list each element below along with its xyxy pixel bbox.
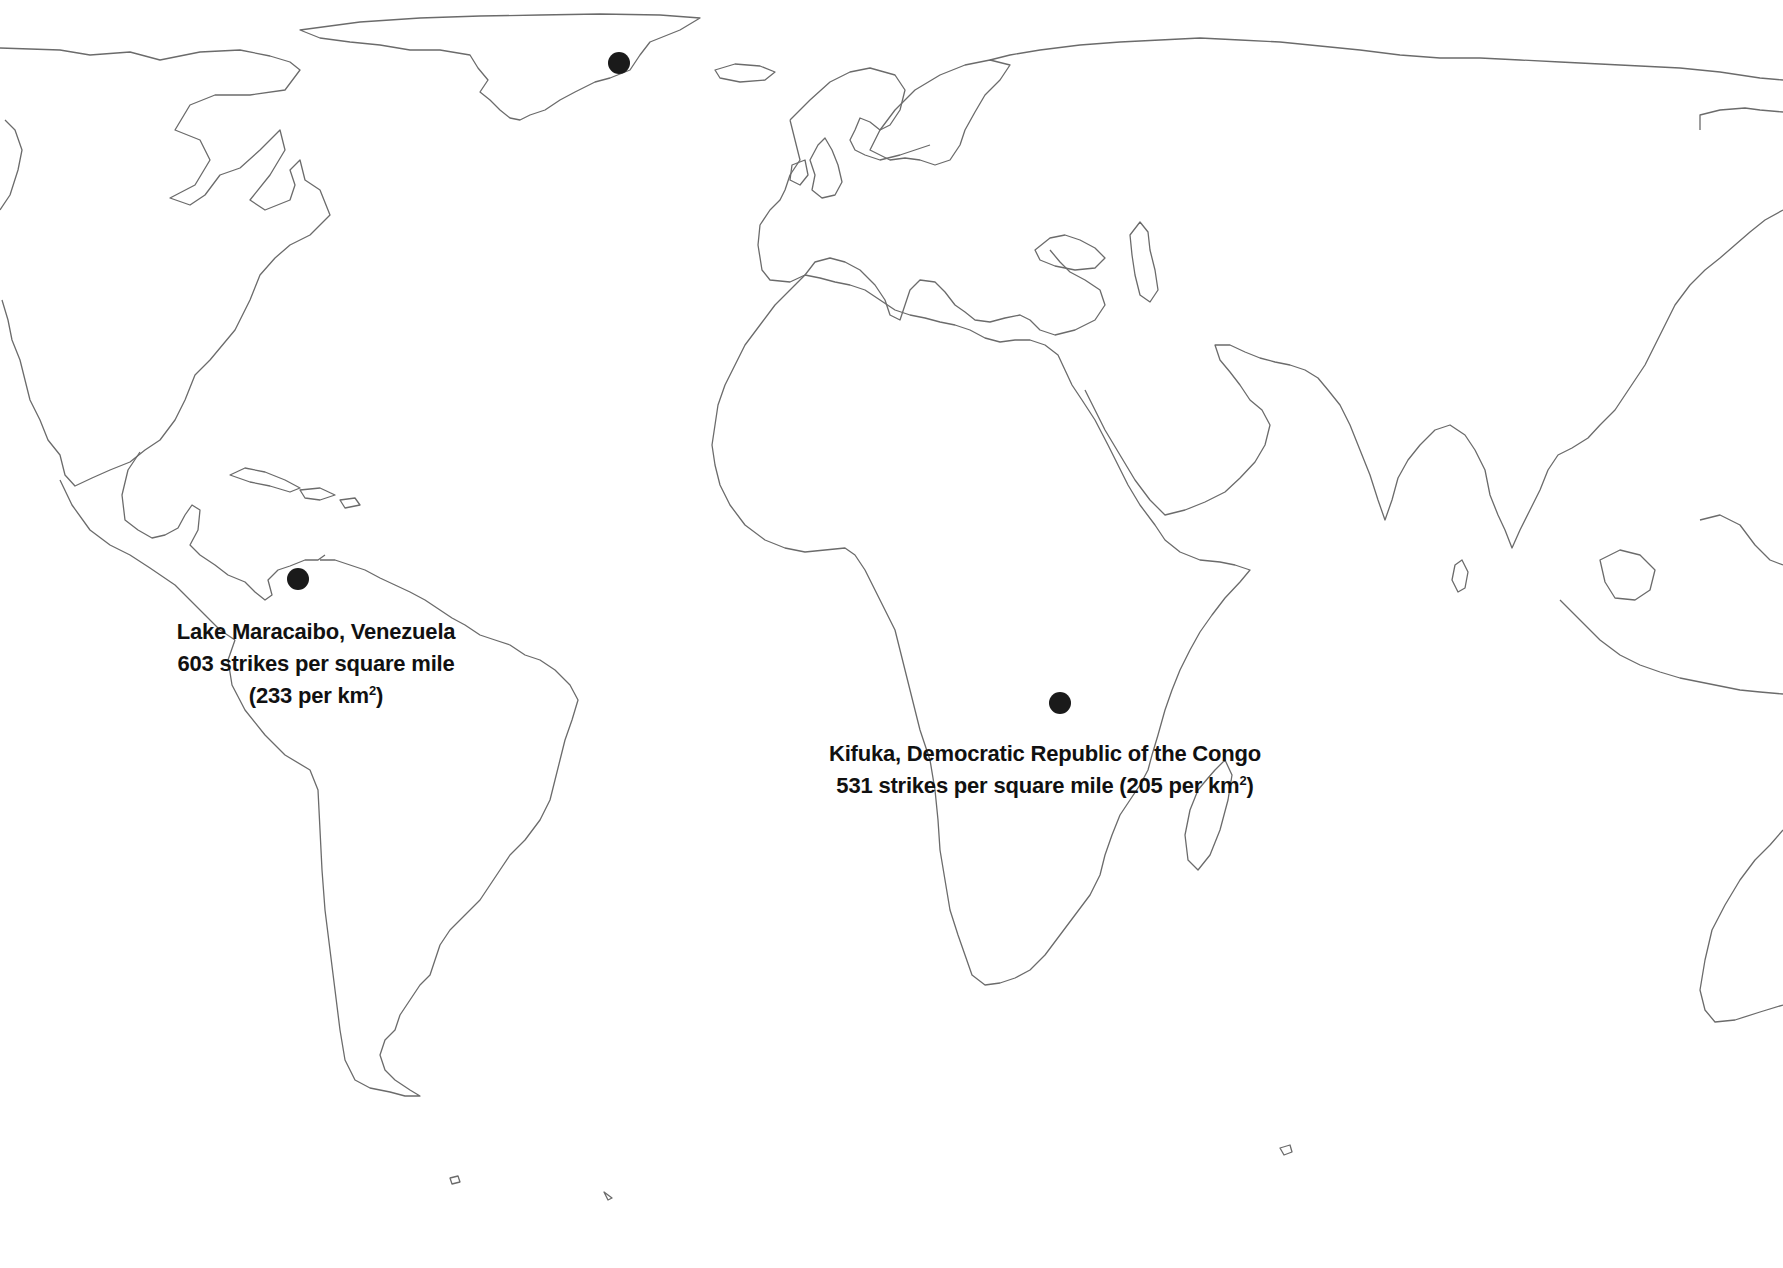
label-maracaibo-strikes-mile: 603 strikes per square mile bbox=[146, 648, 486, 680]
southeast-asia-islands bbox=[1560, 515, 1783, 694]
greenland-coastline bbox=[300, 14, 700, 120]
label-kifuka-location: Kifuka, Democratic Republic of the Congo bbox=[780, 738, 1310, 770]
label-maracaibo-strikes-km: (233 per km2) bbox=[146, 680, 486, 712]
marker-greenland bbox=[608, 52, 630, 74]
asia-coastline bbox=[990, 38, 1783, 548]
label-kifuka: Kifuka, Democratic Republic of the Congo… bbox=[780, 738, 1310, 802]
marker-lake-maracaibo bbox=[287, 568, 309, 590]
scandinavia-coastline bbox=[870, 60, 1010, 165]
label-lake-maracaibo: Lake Maracaibo, Venezuela 603 strikes pe… bbox=[146, 616, 486, 712]
iceland-coastline bbox=[715, 64, 775, 82]
north-america-coastline bbox=[0, 48, 330, 486]
europe-coastline bbox=[758, 68, 1105, 335]
sri-lanka-coastline bbox=[1452, 560, 1468, 592]
british-isles-coastline bbox=[790, 138, 842, 198]
small-islands bbox=[450, 1145, 1292, 1200]
black-sea-coastline bbox=[1035, 222, 1158, 302]
africa-coastline bbox=[712, 275, 1250, 985]
label-maracaibo-location: Lake Maracaibo, Venezuela bbox=[146, 616, 486, 648]
label-kifuka-strikes: 531 strikes per square mile (205 per km2… bbox=[780, 770, 1310, 802]
caribbean-islands bbox=[230, 468, 360, 508]
marker-kifuka bbox=[1049, 692, 1071, 714]
australia-coastline bbox=[1700, 830, 1783, 1022]
